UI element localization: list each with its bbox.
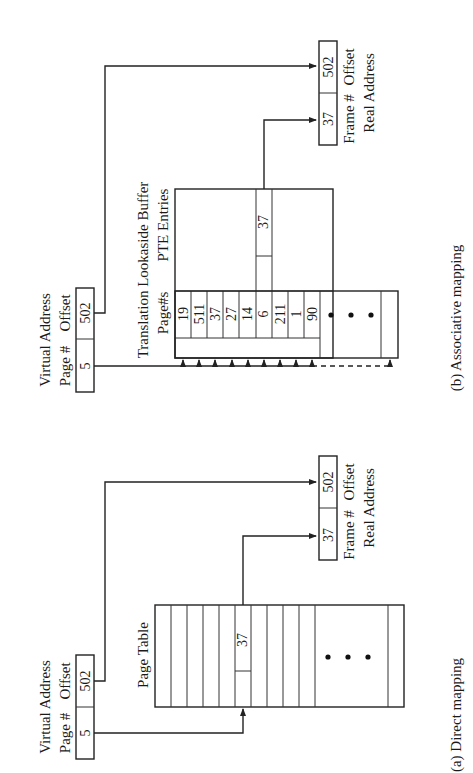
tlb-page-8: 90 bbox=[305, 307, 320, 321]
va-b-offset-value: 502 bbox=[78, 303, 93, 324]
ra-b-title: Real Address bbox=[361, 53, 377, 133]
tlb-ellipsis-dot bbox=[328, 312, 333, 317]
page-index-arrow-a bbox=[94, 709, 243, 733]
paging-diagram: Virtual Address Page # Offset 5 502 Tran… bbox=[0, 0, 473, 773]
pt-ellipsis-dot bbox=[365, 654, 370, 659]
ra-a-offset-value: 502 bbox=[321, 472, 336, 493]
va-b-page-value: 5 bbox=[78, 363, 93, 370]
va-a-title: Virtual Address bbox=[37, 660, 53, 754]
frame-arrow-a bbox=[243, 536, 316, 605]
caption-a: (a) Direct mapping bbox=[448, 657, 465, 772]
ra-a-offset-label: Offset bbox=[341, 463, 357, 501]
ra-a-frame-value: 37 bbox=[321, 528, 336, 542]
tlb-ellipsis-dot bbox=[368, 312, 373, 317]
ra-a-frame-label: Frame # bbox=[341, 510, 357, 560]
tlb-title: Translation Lookaside Buffer bbox=[135, 182, 151, 359]
va-b-offset-label: Offset bbox=[57, 294, 73, 332]
ra-b-frame-label: Frame # bbox=[341, 94, 357, 144]
va-a-page-value: 5 bbox=[78, 730, 93, 737]
tlb-page-4: 14 bbox=[240, 307, 255, 321]
frame-arrow-b bbox=[264, 120, 316, 189]
tlb-table: 19 511 37 27 14 6 211 1 90 37 bbox=[175, 189, 374, 358]
page-table: 37 bbox=[155, 605, 404, 707]
tlb-matched-pte: 37 bbox=[256, 215, 271, 229]
associative-mapping: Virtual Address Page # Offset 5 502 Tran… bbox=[37, 41, 465, 392]
caption-b: (b) Associative mapping bbox=[448, 244, 465, 391]
va-a-offset-label: Offset bbox=[57, 662, 73, 700]
real-address-a: 502 37 Offset Frame # Real Address bbox=[319, 456, 377, 560]
ra-b-offset-value: 502 bbox=[321, 57, 336, 78]
va-b-title: Virtual Address bbox=[37, 293, 53, 387]
direct-mapping: Virtual Address Page # Offset 5 502 Page… bbox=[37, 456, 465, 772]
tlb-page-3: 27 bbox=[224, 307, 239, 321]
tlb-page-6: 211 bbox=[273, 304, 288, 324]
page-table-entry: 37 bbox=[235, 633, 250, 647]
virtual-address-b: Virtual Address Page # Offset 5 502 bbox=[37, 288, 94, 392]
tlb-page-2: 37 bbox=[208, 307, 223, 321]
va-a-offset-value: 502 bbox=[78, 671, 93, 692]
tlb-pte-label: PTE Entries bbox=[155, 188, 171, 261]
pt-ellipsis-dot bbox=[325, 654, 330, 659]
ra-a-title: Real Address bbox=[361, 468, 377, 548]
virtual-address-a: Virtual Address Page # Offset 5 502 bbox=[37, 655, 94, 759]
tlb-page-7: 1 bbox=[289, 311, 304, 318]
tlb-page-label: Page#s bbox=[155, 292, 171, 335]
ra-b-frame-value: 37 bbox=[321, 112, 336, 126]
va-b-page-label: Page # bbox=[57, 345, 73, 386]
pt-ellipsis-dot bbox=[345, 654, 350, 659]
page-table-title: Page Table bbox=[135, 622, 151, 688]
tlb-ellipsis-dot bbox=[348, 312, 353, 317]
real-address-b: 502 37 Offset Frame # Real Address bbox=[319, 41, 377, 145]
ra-b-offset-label: Offset bbox=[341, 48, 357, 86]
tlb-page-1: 511 bbox=[192, 304, 207, 324]
va-a-page-label: Page # bbox=[57, 712, 73, 753]
tlb-search-lines bbox=[94, 360, 390, 366]
tlb-page-5: 6 bbox=[256, 311, 271, 318]
tlb-page-0: 19 bbox=[176, 307, 191, 321]
